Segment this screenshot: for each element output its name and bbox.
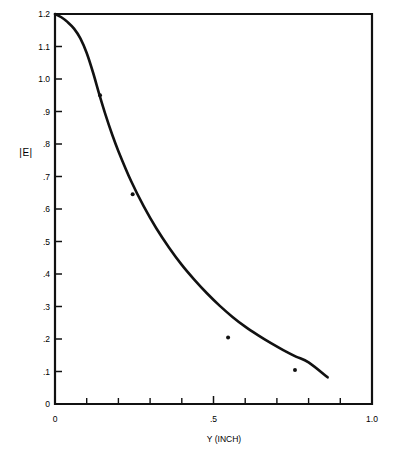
y-tick-label: .7 bbox=[43, 172, 50, 182]
y-tick-label: 1.1 bbox=[38, 42, 50, 52]
y-tick-label: .4 bbox=[43, 269, 50, 279]
y-tick-label: .1 bbox=[43, 367, 50, 377]
chart-canvas: 0.1.2.3.4.5.6.7.8.91.01.11.2 0.51.0 |E| … bbox=[0, 0, 394, 450]
y-tick-label: 1.2 bbox=[38, 9, 50, 19]
data-point-marker bbox=[293, 368, 297, 372]
y-axis-tick-labels: 0.1.2.3.4.5.6.7.8.91.01.11.2 bbox=[38, 9, 50, 409]
x-tick-label: 1.0 bbox=[366, 414, 378, 424]
x-axis-tick-labels: 0.51.0 bbox=[53, 414, 379, 424]
figure-container: 0.1.2.3.4.5.6.7.8.91.01.11.2 0.51.0 |E| … bbox=[0, 0, 394, 450]
y-tick-label: .8 bbox=[43, 139, 50, 149]
x-axis-ticks bbox=[55, 396, 372, 404]
y-tick-label: .2 bbox=[43, 334, 50, 344]
data-point-marker bbox=[98, 93, 102, 97]
y-tick-label: 0 bbox=[45, 399, 50, 409]
x-tick-label: 0 bbox=[53, 414, 58, 424]
x-axis-title: Y (INCH) bbox=[207, 434, 241, 444]
x-tick-label: .5 bbox=[210, 414, 217, 424]
y-tick-label: .3 bbox=[43, 302, 50, 312]
data-point-marker bbox=[131, 192, 135, 196]
y-axis-title: |E| bbox=[19, 147, 32, 158]
y-tick-label: .6 bbox=[43, 204, 50, 214]
data-point-marker bbox=[226, 335, 230, 339]
data-curve-line bbox=[55, 14, 328, 377]
y-tick-label: .9 bbox=[43, 107, 50, 117]
plot-frame bbox=[55, 14, 372, 404]
data-point-markers bbox=[98, 93, 297, 372]
y-tick-label: .5 bbox=[43, 237, 50, 247]
y-tick-label: 1.0 bbox=[38, 74, 50, 84]
